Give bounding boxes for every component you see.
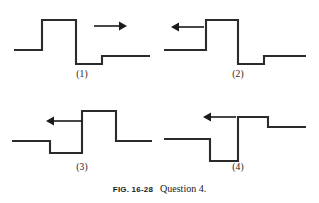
waveform-panel-3: (3) — [6, 99, 158, 185]
waveform-plot-2 — [162, 6, 314, 72]
wave-polyline-1 — [14, 20, 150, 64]
arrow-head-1 — [119, 22, 127, 31]
arrow-head-4 — [203, 113, 211, 122]
panel-label-2: (2) — [162, 68, 314, 80]
figure-caption-text: Question 4. — [160, 183, 206, 194]
arrow-left-icon — [171, 23, 204, 32]
arrow-head-3 — [46, 117, 54, 126]
wave-polyline-3 — [12, 111, 152, 153]
waveform-panel-2: (2) — [162, 6, 314, 92]
waveform-plot-1 — [6, 6, 158, 72]
wave-polyline-4 — [164, 117, 306, 161]
arrow-left-icon — [46, 117, 82, 126]
panel-label-4: (4) — [162, 161, 314, 173]
figure-number: FIG. 16-28 — [113, 185, 153, 194]
arrow-head-2 — [171, 23, 179, 32]
arrow-right-icon — [94, 22, 127, 31]
waveform-panel-1: (1) — [6, 6, 158, 92]
panel-label-3: (3) — [6, 161, 158, 173]
arrow-left-icon — [203, 113, 236, 122]
panel-label-1: (1) — [6, 68, 158, 80]
figure-16-28: (1) (2) (3) — [0, 0, 319, 203]
waveform-plot-3 — [6, 99, 158, 165]
figure-caption: FIG. 16-28Question 4. — [0, 183, 319, 196]
waveform-panel-4: (4) — [162, 99, 314, 185]
waveform-plot-4 — [162, 99, 314, 165]
